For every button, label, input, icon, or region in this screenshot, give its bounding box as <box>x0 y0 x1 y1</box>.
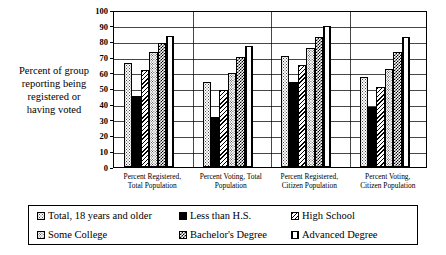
legend-label: Bachelor's Degree <box>190 229 267 240</box>
x-category-label: Percent Voting,Citizen Population <box>349 172 428 191</box>
legend-label: Some College <box>48 229 107 240</box>
x-category-label-line: Citizen Population <box>349 181 428 190</box>
legend-label: High School <box>302 210 355 221</box>
bar <box>149 52 157 167</box>
legend-item[interactable]: Total, 18 years and older <box>37 206 152 225</box>
legend-item[interactable]: Advanced Degree <box>291 225 378 244</box>
bar <box>203 82 211 167</box>
y-tick-label: 60 <box>88 70 108 78</box>
bar <box>132 96 140 167</box>
bar <box>141 70 149 167</box>
bar <box>298 65 306 167</box>
y-tick-label: 70 <box>88 54 108 62</box>
bar <box>124 63 132 167</box>
plot-area <box>113 11 427 168</box>
y-tick-label: 100 <box>88 7 108 15</box>
legend-label: Advanced Degree <box>302 229 378 240</box>
x-category-label-line: Percent Voting, Total <box>192 172 271 181</box>
legend-swatch-icon <box>37 212 45 220</box>
x-category-label: Percent Registered,Total Population <box>113 172 192 191</box>
legend-label: Less than H.S. <box>190 210 251 221</box>
bar <box>402 37 410 167</box>
bar-group <box>350 12 429 167</box>
x-category-label-line: Percent Registered, <box>113 172 192 181</box>
bar <box>368 107 376 167</box>
legend-label: Total, 18 years and older <box>48 210 152 221</box>
y-tick-label: 90 <box>88 23 108 31</box>
bar <box>323 26 331 167</box>
y-tick-label: 20 <box>88 132 108 140</box>
x-category-label: Percent Registered,Citizen Population <box>270 172 349 191</box>
y-tick-label: 40 <box>88 101 108 109</box>
bar <box>228 73 236 167</box>
bar <box>236 57 244 167</box>
bar <box>211 117 219 167</box>
bar <box>360 77 368 167</box>
x-category-label-line: Percent Registered, <box>270 172 349 181</box>
legend-swatch-icon <box>291 212 299 220</box>
y-tick-label: 30 <box>88 117 108 125</box>
legend-swatch-icon <box>37 231 45 239</box>
bar-group <box>114 12 193 167</box>
bar <box>393 52 401 167</box>
chart-legend: Total, 18 years and olderLess than H.S.H… <box>28 205 418 245</box>
legend-swatch-icon <box>179 231 187 239</box>
bar <box>245 46 253 167</box>
y-tick-label: 50 <box>88 85 108 93</box>
bar <box>219 90 227 167</box>
bar-group <box>271 12 350 167</box>
x-category-label: Percent Voting, TotalPopulation <box>192 172 271 191</box>
bar <box>281 56 289 167</box>
legend-swatch-icon <box>291 231 299 239</box>
bar <box>306 48 314 167</box>
y-tick-label: 10 <box>88 148 108 156</box>
x-category-label-line: Percent Voting, <box>349 172 428 181</box>
x-category-label-line: Total Population <box>113 181 192 190</box>
bar <box>385 69 393 167</box>
bar <box>376 87 384 167</box>
legend-item[interactable]: Less than H.S. <box>179 206 251 225</box>
legend-item[interactable]: Some College <box>37 225 107 244</box>
legend-item[interactable]: High School <box>291 206 355 225</box>
bar <box>289 82 297 167</box>
bar <box>158 43 166 167</box>
chart-figure: Percent of group reporting being registe… <box>0 0 446 255</box>
x-category-label-line: Population <box>192 181 271 190</box>
bar-group <box>193 12 272 167</box>
y-tick-label: 80 <box>88 38 108 46</box>
bar <box>315 37 323 167</box>
y-tick-label: 0 <box>88 164 108 172</box>
bar <box>166 36 174 167</box>
x-category-label-line: Citizen Population <box>270 181 349 190</box>
legend-swatch-icon <box>179 212 187 220</box>
legend-item[interactable]: Bachelor's Degree <box>179 225 267 244</box>
